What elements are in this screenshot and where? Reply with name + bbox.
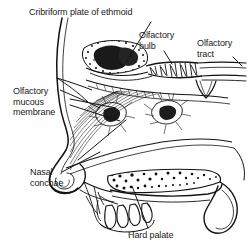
label-cribriform-plate-of-ethmoid: Cribriform plate of ethmoid [29,7,132,18]
anatomical-illustration: Cribriform plate of ethmoid Olfactory bu… [0,0,248,249]
label-nasal-conchae: Nasal conchae [30,167,63,188]
label-hard-palate: Hard palate [128,230,173,241]
label-olfactory-tract: Olfactory tract [197,38,232,59]
label-olfactory-bulb: Olfactory bulb [139,30,174,51]
label-olfactory-mucous-membrane: Olfactory mucous membrane [13,86,55,118]
